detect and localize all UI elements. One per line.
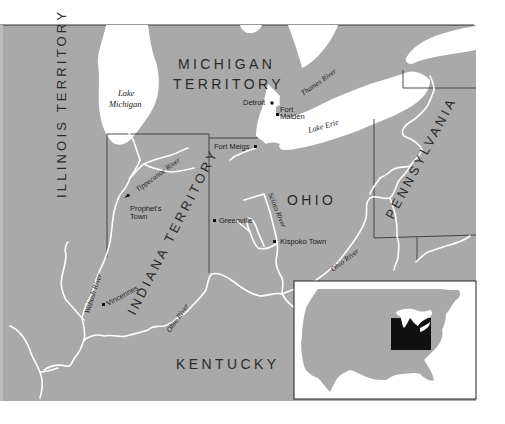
city-marker xyxy=(102,303,105,306)
place-greenville: Greenville xyxy=(213,216,253,225)
label-lake-michigan-2: Michigan xyxy=(108,99,142,109)
city-marker xyxy=(273,240,276,243)
highlighted-region xyxy=(391,318,431,350)
city-marker xyxy=(254,145,257,148)
label-kispoko-town: Kispoko Town xyxy=(280,237,326,246)
left-edge-fade xyxy=(0,25,3,401)
label-fort-meigs: Fort Meigs xyxy=(214,142,250,151)
label-greenville: Greenville xyxy=(219,216,253,225)
label-prophets-town-2: Town xyxy=(130,212,148,221)
city-marker xyxy=(213,219,216,222)
right-margin xyxy=(476,25,505,424)
inset-locator-map xyxy=(294,281,476,399)
city-marker xyxy=(276,113,279,116)
label-lake-michigan-1: Lake xyxy=(117,88,135,98)
label-illinois-territory: ILLINOIS TERRITORY xyxy=(54,9,69,198)
label-detroit: Detroit xyxy=(243,98,266,107)
label-michigan-territory-2: TERRITORY xyxy=(173,76,284,92)
city-marker xyxy=(271,102,274,105)
city-marker xyxy=(127,194,130,197)
label-fort-malden-2: Malden xyxy=(280,112,305,121)
historical-map: MICHIGAN TERRITORY ILLINOIS TERRITORY IN… xyxy=(0,0,505,424)
label-michigan-territory-1: MICHIGAN xyxy=(178,56,275,72)
label-kentucky: KENTUCKY xyxy=(176,356,279,372)
label-ohio: OHIO xyxy=(287,192,336,208)
place-kispoko-town: Kispoko Town xyxy=(273,237,326,246)
